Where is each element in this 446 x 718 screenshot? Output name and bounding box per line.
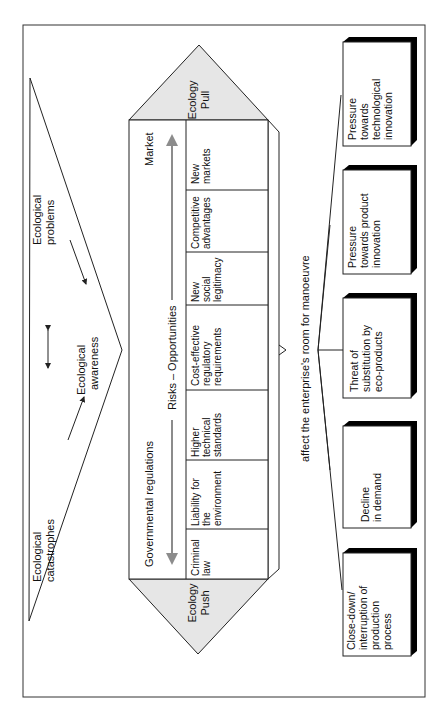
government-label: Governmental regulations xyxy=(143,441,155,567)
outcome-close-down: Close-down/interruption ofproductionproc… xyxy=(343,548,417,656)
outcome-substitution: Threat ofsubstitution byeco-products xyxy=(343,293,417,398)
svg-text:problems: problems xyxy=(44,199,56,245)
outcome-technological-innovation: Pressuretowardstechnologicalinnovation xyxy=(343,37,417,146)
market-label: Market xyxy=(143,132,155,166)
outcome-boxes: Pressuretowardstechnologicalinnovation P… xyxy=(343,37,417,656)
ecology-push-pull-diagram: Ecological problems Ecological catastrop… xyxy=(0,0,446,718)
connector-lines xyxy=(318,95,343,590)
svg-text:Push: Push xyxy=(199,590,211,615)
svg-text:Ecological: Ecological xyxy=(31,532,43,582)
outcome-decline-demand: Declinein demand xyxy=(343,421,417,528)
svg-text:Ecological: Ecological xyxy=(31,195,43,245)
svg-text:Pull: Pull xyxy=(199,91,211,109)
svg-text:Competitiveadvantages: Competitiveadvantages xyxy=(190,196,212,249)
house-side xyxy=(268,120,279,579)
risks-opportunities-label: Risks – Opportunities xyxy=(166,305,178,410)
effect-label: affect the enterprise's room for manoeuv… xyxy=(299,255,311,462)
svg-text:awareness: awareness xyxy=(88,336,100,390)
ecology-pull-label: Ecology xyxy=(186,80,198,120)
svg-text:catastrophes: catastrophes xyxy=(44,519,56,582)
outcome-product-innovation: Pressuretowards productinnovation xyxy=(343,165,417,274)
svg-text:Ecological: Ecological xyxy=(75,345,87,395)
ecology-push-label: Ecology xyxy=(186,583,198,623)
